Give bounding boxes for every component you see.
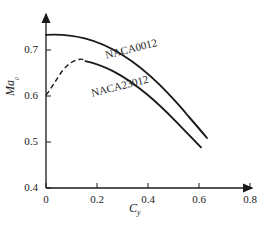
plot-area: [0, 0, 272, 225]
x-tick-label-3: 0.6: [185, 194, 213, 205]
x-tick-label-4: 0.8: [236, 194, 264, 205]
y-tick-label-0: 0.7: [12, 44, 38, 55]
y-tick-label-3: 0.4: [12, 182, 38, 193]
x-tick-label-1: 0.2: [83, 194, 111, 205]
y-axis-title-text: Ma: [3, 80, 17, 96]
x-axis-title-text: C: [129, 201, 137, 215]
x-tick-marks: [46, 183, 250, 188]
y-tick-marks: [46, 50, 51, 188]
x-tick-label-0: 0: [32, 194, 60, 205]
y-tick-label-2: 0.5: [12, 136, 38, 147]
y-axis-title: Ma₀: [4, 77, 19, 96]
x-axis-title-subscript: y: [137, 208, 141, 217]
x-axis-title: Cy: [129, 202, 141, 217]
curve-naca23012-dashed: [46, 59, 86, 95]
y-axis-title-subscript: ₀: [10, 77, 19, 80]
chart-figure: 0.7 0.6 0.5 0.4 0 0.2 0.4 0.6 0.8 Ma₀ Cy…: [0, 0, 272, 225]
